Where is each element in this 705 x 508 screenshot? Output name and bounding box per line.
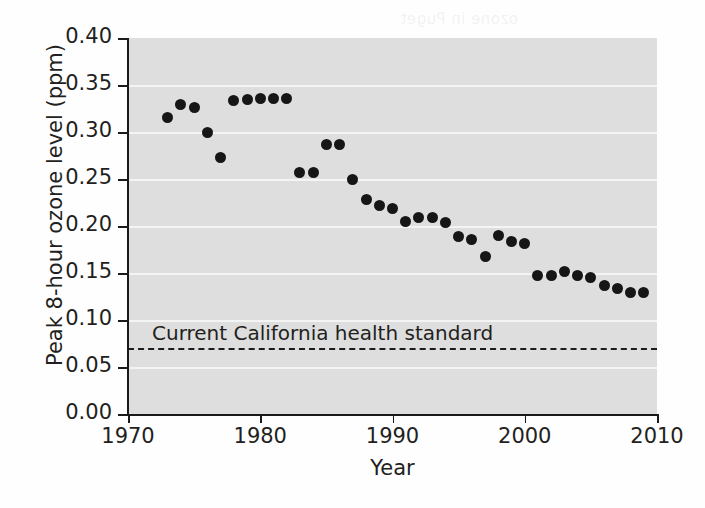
data-point [387,203,398,214]
data-point [506,236,517,247]
threshold-annotation-label: Current California health standard [152,321,493,345]
x-axis-tick [525,414,527,423]
x-axis-tick-label: 1990 [348,424,438,448]
gridline [128,179,657,181]
data-point [255,93,266,104]
y-axis-tick [118,179,128,181]
data-point [202,127,213,138]
gridline [128,85,657,87]
data-point [427,212,438,223]
y-axis-tick-label: 0.35 [40,71,112,95]
x-axis-tick [393,414,395,423]
data-point [228,95,239,106]
x-axis-tick [657,414,659,423]
y-axis-tick [118,132,128,134]
y-axis-tick-label: 0.40 [40,24,112,48]
x-axis-tick [260,414,262,423]
y-axis-tick-label: 0.15 [40,259,112,283]
data-point [612,283,623,294]
gridline [128,226,657,228]
data-point [294,167,305,178]
data-point [493,230,504,241]
y-axis-tick-label: 0.25 [40,165,112,189]
y-axis-tick [118,85,128,87]
plot-area [128,38,657,414]
data-point [440,217,451,228]
gridline [128,367,657,369]
y-axis-tick-label: 0.00 [40,400,112,424]
data-point [546,270,557,281]
data-point [334,139,345,150]
data-point [321,139,332,150]
ozone-chart-figure: ozone in Puget Record 2013 Air Quality P… [0,0,705,508]
x-axis-tick-label: 1970 [83,424,173,448]
data-point [453,231,464,242]
data-point [413,212,424,223]
data-point [480,251,491,262]
y-axis-tick [118,273,128,275]
data-point [572,270,583,281]
data-point [599,280,610,291]
x-axis-tick-label: 1980 [215,424,305,448]
data-point [189,102,200,113]
data-point [215,152,226,163]
y-axis-tick-label: 0.30 [40,118,112,142]
y-axis-tick [118,414,128,416]
data-point [308,167,319,178]
y-axis-tick-label: 0.20 [40,212,112,236]
y-axis-tick [118,320,128,322]
data-point [519,238,530,249]
data-point [281,93,292,104]
x-axis-tick-label: 2010 [612,424,702,448]
y-axis-tick [118,367,128,369]
data-point [466,234,477,245]
data-point [361,194,372,205]
ghost-text-1: ozone in Puget [400,10,518,28]
data-point [374,200,385,211]
x-axis-tick [128,414,130,423]
data-point [559,266,570,277]
data-point [347,174,358,185]
data-point [242,94,253,105]
data-point [638,287,649,298]
y-axis-tick-label: 0.05 [40,353,112,377]
y-axis-tick-label: 0.10 [40,306,112,330]
data-point [625,287,636,298]
data-point [400,216,411,227]
threshold-dashed-line [128,348,657,350]
data-point [585,272,596,283]
data-point [532,270,543,281]
y-axis-tick [118,226,128,228]
x-axis-tick-label: 2000 [480,424,570,448]
data-point [175,99,186,110]
x-axis-title: Year [128,456,657,480]
y-axis-tick [118,38,128,40]
data-point [268,93,279,104]
data-point [162,112,173,123]
